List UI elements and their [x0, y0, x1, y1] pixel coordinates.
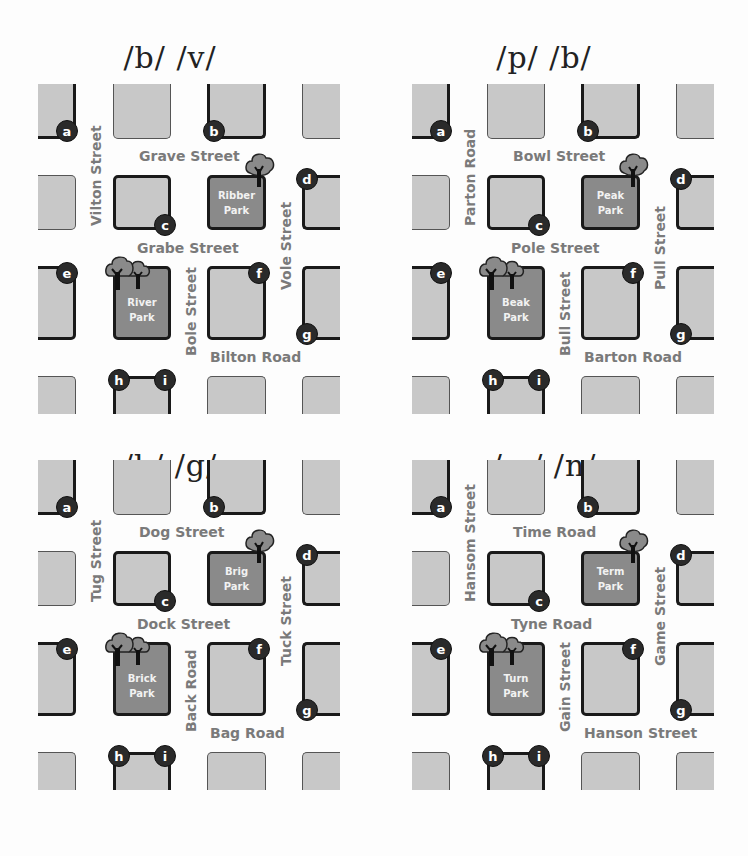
trees-icon: [105, 630, 151, 668]
city-block: [676, 752, 714, 790]
park-upper-label: BrigPark: [210, 564, 263, 594]
street-bottom-horizontal: Hanson Street: [584, 725, 697, 741]
street-middle-horizontal: Pole Street: [511, 240, 599, 256]
city-block: [38, 752, 76, 790]
marker-d[interactable]: d: [670, 168, 692, 190]
park-upper-label: RibberPark: [210, 188, 263, 218]
street-top-horizontal: Dog Street: [139, 524, 225, 540]
street-map: PeakPark BeakPark: [374, 0, 714, 420]
street-map: TermPark TurnPark: [374, 376, 714, 796]
map-panel-4: /m/ /n/ TermPark TurnPark: [374, 428, 714, 848]
city-block: [113, 84, 171, 139]
street-middle-horizontal: Dock Street: [137, 616, 230, 632]
street-right-vertical: Game Street: [652, 567, 668, 666]
marker-g[interactable]: g: [670, 323, 692, 345]
marker-a[interactable]: a: [430, 120, 452, 142]
tree-icon: [618, 527, 652, 567]
marker-c[interactable]: c: [154, 214, 176, 236]
marker-i[interactable]: i: [154, 745, 176, 767]
city-block: [676, 460, 714, 515]
street-bottom-horizontal: Bilton Road: [210, 349, 301, 365]
marker-f[interactable]: f: [622, 262, 644, 284]
marker-c[interactable]: c: [528, 214, 550, 236]
street-top-horizontal: Time Road: [513, 524, 596, 540]
marker-f[interactable]: f: [248, 262, 270, 284]
city-block: [207, 752, 266, 790]
street-left-vertical: Hansom Street: [462, 484, 478, 602]
park-lower-label: TurnPark: [490, 671, 542, 701]
park-lower-label: RiverPark: [116, 295, 168, 325]
street-left-vertical: Tug Street: [88, 520, 104, 602]
street-center-vertical: Bull Street: [557, 272, 573, 356]
city-block: [302, 460, 340, 515]
marker-g[interactable]: g: [296, 323, 318, 345]
marker-h[interactable]: h: [482, 745, 504, 767]
street-center-vertical: Bole Street: [183, 267, 199, 356]
street-center-vertical: Gain Street: [557, 642, 573, 732]
tree-icon: [244, 527, 278, 567]
street-bottom-horizontal: Barton Road: [584, 349, 682, 365]
city-block: [487, 460, 545, 515]
street-middle-horizontal: Tyne Road: [511, 616, 592, 632]
marker-a[interactable]: a: [430, 496, 452, 518]
park-lower-label: BrickPark: [116, 671, 168, 701]
city-block: [302, 752, 340, 790]
marker-f[interactable]: f: [622, 638, 644, 660]
marker-d[interactable]: d: [296, 168, 318, 190]
marker-e[interactable]: e: [430, 262, 452, 284]
city-block: [113, 460, 171, 515]
city-block: [302, 84, 340, 139]
street-top-horizontal: Bowl Street: [513, 148, 605, 164]
marker-g[interactable]: g: [670, 699, 692, 721]
trees-icon: [479, 630, 525, 668]
marker-h[interactable]: h: [108, 745, 130, 767]
street-center-vertical: Back Road: [183, 650, 199, 732]
map-panel-3: /k/ /g/ BrigPark BrickPark: [0, 428, 340, 848]
marker-a[interactable]: a: [56, 120, 78, 142]
street-left-vertical: Parton Road: [462, 129, 478, 226]
marker-e[interactable]: e: [430, 638, 452, 660]
street-left-vertical: Vilton Street: [88, 125, 104, 226]
marker-c[interactable]: c: [528, 590, 550, 612]
city-block: [412, 175, 450, 230]
marker-b[interactable]: b: [577, 120, 599, 142]
city-block: [487, 84, 545, 139]
city-block: [676, 84, 714, 139]
marker-i[interactable]: i: [528, 745, 550, 767]
park-upper-label: TermPark: [584, 564, 637, 594]
marker-d[interactable]: d: [670, 544, 692, 566]
marker-b[interactable]: b: [203, 496, 225, 518]
street-top-horizontal: Grave Street: [139, 148, 240, 164]
marker-e[interactable]: e: [56, 262, 78, 284]
map-panel-2: /p/ /b/ PeakPark BeakPark: [374, 0, 714, 420]
marker-g[interactable]: g: [296, 699, 318, 721]
street-map: RibberPark RiverPark: [0, 0, 340, 420]
marker-b[interactable]: b: [577, 496, 599, 518]
city-block: [581, 752, 640, 790]
city-block: [412, 551, 450, 606]
park-lower-label: BeakPark: [490, 295, 542, 325]
street-middle-horizontal: Grabe Street: [137, 240, 239, 256]
map-panel-1: /b/ /v/ RibberPark RiverPark: [0, 0, 340, 420]
street-right-vertical: Pull Street: [652, 206, 668, 290]
marker-a[interactable]: a: [56, 496, 78, 518]
street-map: BrigPark BrickPark: [0, 376, 340, 796]
tree-icon: [244, 151, 278, 191]
street-right-vertical: Vole Street: [278, 202, 294, 290]
tree-icon: [618, 151, 652, 191]
park-upper-label: PeakPark: [584, 188, 637, 218]
marker-c[interactable]: c: [154, 590, 176, 612]
street-bottom-horizontal: Bag Road: [210, 725, 285, 741]
trees-icon: [479, 254, 525, 292]
marker-e[interactable]: e: [56, 638, 78, 660]
marker-d[interactable]: d: [296, 544, 318, 566]
city-block: [38, 551, 76, 606]
street-right-vertical: Tuck Street: [278, 576, 294, 666]
city-block: [38, 175, 76, 230]
marker-b[interactable]: b: [203, 120, 225, 142]
city-block: [412, 752, 450, 790]
marker-f[interactable]: f: [248, 638, 270, 660]
trees-icon: [105, 254, 151, 292]
